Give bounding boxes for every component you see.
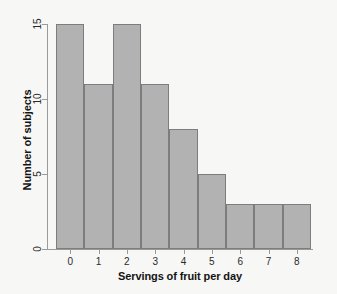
histogram-bar	[84, 84, 112, 249]
x-axis-tick-label: 7	[257, 256, 281, 267]
y-axis-tick-mark	[42, 99, 47, 100]
x-axis-tick-label: 0	[58, 256, 82, 267]
x-axis-tick-label: 5	[200, 256, 224, 267]
histogram-bar	[141, 84, 169, 249]
x-axis-tick-mark	[70, 250, 71, 254]
x-axis-tick-mark	[297, 250, 298, 254]
y-axis-title: Number of subjects	[18, 25, 36, 255]
x-axis-tick-label: 4	[172, 256, 196, 267]
histogram-bar	[283, 204, 311, 249]
histogram-bar	[56, 24, 84, 249]
histogram-figure: Number of subjects 051015 012345678 Serv…	[0, 0, 337, 294]
y-axis-line	[47, 24, 48, 250]
x-axis-line	[47, 249, 313, 250]
x-axis-tick-mark	[127, 250, 128, 254]
x-axis-tick-label: 1	[87, 256, 111, 267]
x-axis-tick-label: 8	[285, 256, 309, 267]
x-axis-tick-label: 6	[228, 256, 252, 267]
x-axis-tick-mark	[184, 250, 185, 254]
x-axis-tick-label: 3	[143, 256, 167, 267]
x-axis-tick-mark	[99, 250, 100, 254]
histogram-bar	[198, 174, 226, 249]
x-axis-tick-mark	[212, 250, 213, 254]
x-axis-tick-mark	[269, 250, 270, 254]
y-axis-tick-mark	[42, 174, 47, 175]
histogram-bar	[113, 24, 141, 249]
histogram-bar	[226, 204, 254, 249]
y-axis-tick-mark	[42, 249, 47, 250]
y-axis-tick-mark	[42, 24, 47, 25]
x-axis-tick-label: 2	[115, 256, 139, 267]
x-axis-tick-mark	[155, 250, 156, 254]
x-axis-tick-mark	[240, 250, 241, 254]
plot-area	[56, 24, 311, 249]
x-axis-title: Servings of fruit per day	[47, 270, 313, 282]
histogram-bar	[254, 204, 282, 249]
histogram-bar	[169, 129, 197, 249]
